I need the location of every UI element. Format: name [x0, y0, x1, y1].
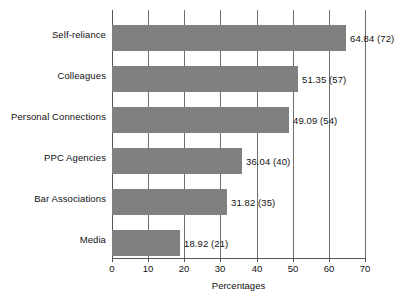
x-tick-label-10: 10 — [143, 264, 154, 274]
x-axis-title: Percentages — [112, 281, 365, 291]
x-tick-60 — [329, 258, 330, 262]
x-tick-40 — [257, 258, 258, 262]
x-tick-50 — [293, 258, 294, 262]
x-tick-label-0: 0 — [109, 264, 114, 274]
gridline-70 — [365, 10, 366, 258]
x-tick-label-30: 30 — [215, 264, 226, 274]
category-label-personal-connections: Personal Connections — [0, 112, 106, 122]
bar-ppc-agencies — [112, 148, 242, 174]
bar-value-bar-associations: 31.82 (35) — [231, 198, 275, 208]
plot-area: 64.84 (72) 51.35 (57) 49.09 (54) 36.04 (… — [112, 10, 365, 258]
x-tick-label-20: 20 — [179, 264, 190, 274]
x-tick-10 — [148, 258, 149, 262]
bar-self-reliance — [112, 25, 346, 51]
x-tick-70 — [365, 258, 366, 262]
bar-value-colleagues: 51.35 (57) — [302, 75, 346, 85]
bar-personal-connections — [112, 107, 289, 133]
bar-value-self-reliance: 64.84 (72) — [350, 34, 394, 44]
x-tick-label-60: 60 — [324, 264, 335, 274]
bar-chart: Self-reliance Colleagues Personal Connec… — [0, 0, 403, 302]
x-tick-label-50: 50 — [288, 264, 299, 274]
bar-value-personal-connections: 49.09 (54) — [293, 116, 337, 126]
x-tick-20 — [184, 258, 185, 262]
x-tick-label-40: 40 — [252, 264, 263, 274]
x-axis-line — [112, 258, 365, 259]
x-tick-label-70: 70 — [360, 264, 371, 274]
bar-bar-associations — [112, 189, 227, 215]
bar-value-ppc-agencies: 36.04 (40) — [246, 157, 290, 167]
bar-media — [112, 230, 180, 256]
category-axis-labels: Self-reliance Colleagues Personal Connec… — [0, 0, 106, 302]
category-label-media: Media — [0, 235, 106, 245]
x-tick-30 — [220, 258, 221, 262]
category-label-self-reliance: Self-reliance — [0, 30, 106, 40]
category-label-ppc-agencies: PPC Agencies — [0, 153, 106, 163]
category-label-colleagues: Colleagues — [0, 71, 106, 81]
category-label-bar-associations: Bar Associations — [0, 194, 106, 204]
x-tick-0 — [112, 258, 113, 262]
bar-value-media: 18.92 (21) — [184, 239, 228, 249]
bar-colleagues — [112, 66, 298, 92]
